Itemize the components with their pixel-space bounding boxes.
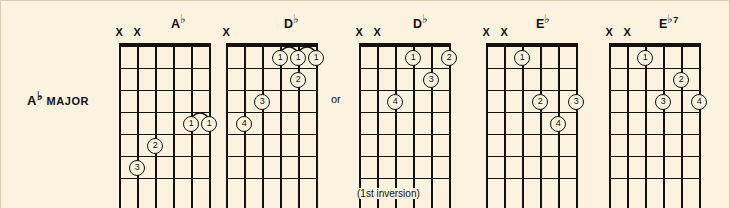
string-line [486, 46, 488, 208]
fretboard: 1234 [609, 46, 699, 178]
muted-string-x-icon: X [501, 27, 508, 38]
finger-dot-2: 2 [532, 94, 548, 110]
finger-dot-2: 2 [673, 72, 689, 88]
finger-dot-1: 1 [514, 50, 530, 66]
flat-accidental-icon: ♭ [544, 12, 550, 26]
fret-line [359, 178, 451, 179]
chord-title-eb7: E♭7 [659, 12, 678, 31]
nut-bar [359, 43, 451, 47]
fret-line [609, 112, 701, 113]
muted-string-x-icon: X [624, 27, 631, 38]
string-line [377, 46, 379, 208]
chord-family-quality: MAJOR [46, 95, 89, 107]
chord-family-accidental-icon: ♭ [37, 89, 44, 103]
string-line [645, 46, 647, 208]
nut-bar [609, 43, 701, 47]
fret-line [359, 68, 451, 69]
fret-line [609, 90, 701, 91]
finger-dot-3: 3 [423, 72, 439, 88]
nut-bar [486, 43, 578, 47]
flat-accidental-icon: ♭ [180, 12, 186, 26]
finger-dot-2: 2 [441, 50, 457, 66]
muted-string-x-icon: X [134, 27, 141, 38]
finger-dot-1: 1 [201, 116, 217, 132]
string-line [413, 46, 415, 208]
fret-line [359, 90, 451, 91]
diagram-caption: (1st inversion) [355, 188, 422, 199]
string-line [699, 46, 701, 208]
string-line [663, 46, 665, 208]
fret-line [486, 134, 578, 135]
finger-dot-2: 2 [290, 72, 306, 88]
string-line [449, 46, 451, 208]
string-line [609, 46, 611, 208]
chord-family-label: A♭MAJOR [27, 89, 89, 108]
chord-title-db-barre: D♭ [284, 12, 299, 31]
fretboard: 111234 [226, 46, 316, 178]
string-line [627, 46, 629, 208]
chord-title-root: D [413, 17, 422, 31]
finger-dot-1: 1 [308, 50, 324, 66]
fret-line [486, 90, 578, 91]
fret-line [359, 112, 451, 113]
fret-line [359, 156, 451, 157]
string-line [431, 46, 433, 208]
finger-dot-4: 4 [550, 116, 566, 132]
finger-dot-1: 1 [290, 50, 306, 66]
finger-dot-1: 1 [183, 116, 199, 132]
finger-dot-1: 1 [405, 50, 421, 66]
chord-title-ab-open: A♭ [171, 12, 186, 31]
chord-title-root: D [284, 17, 293, 31]
chord-title-suffix: 7 [673, 15, 678, 25]
fret-line [609, 156, 701, 157]
chord-title-eb-major: E♭ [536, 12, 550, 31]
string-line [576, 46, 578, 208]
finger-dot-3: 3 [568, 94, 584, 110]
finger-dot-1: 1 [637, 50, 653, 66]
chord-title-root: A [171, 17, 180, 31]
flat-accidental-icon: ♭ [293, 12, 299, 26]
fret-line [609, 134, 701, 135]
flat-accidental-icon: ♭ [422, 12, 428, 26]
muted-string-x-icon: X [223, 27, 230, 38]
finger-dot-4: 4 [691, 94, 707, 110]
fretboard: 1123 [119, 46, 209, 178]
finger-dot-3: 3 [655, 94, 671, 110]
string-line [540, 46, 542, 208]
fretboard: 1234 [359, 46, 449, 178]
fret-line [486, 68, 578, 69]
muted-string-x-icon: X [356, 27, 363, 38]
string-line [504, 46, 506, 208]
fret-line [486, 178, 578, 179]
muted-string-x-icon: X [116, 27, 123, 38]
fret-line [609, 68, 701, 69]
string-line [681, 46, 683, 208]
muted-string-x-icon: X [606, 27, 613, 38]
fretboard: 1234 [486, 46, 576, 178]
finger-dot-4: 4 [236, 116, 252, 132]
fret-line [486, 112, 578, 113]
fret-line [609, 178, 701, 179]
finger-dot-1: 1 [272, 50, 288, 66]
finger-dot-4: 4 [387, 94, 403, 110]
chord-title-db-first-inversion: D♭ [413, 12, 428, 31]
chord-family-root: A [27, 93, 37, 108]
finger-dot-3: 3 [129, 160, 145, 176]
muted-string-x-icon: X [374, 27, 381, 38]
string-line [522, 46, 524, 208]
finger-dot-2: 2 [147, 138, 163, 154]
muted-string-x-icon: X [483, 27, 490, 38]
string-line [359, 46, 361, 208]
chord-chart-page: A♭MAJOR or A♭XX1123D♭X111234D♭XX1234(1st… [0, 0, 730, 208]
fret-line [359, 134, 451, 135]
finger-dot-3: 3 [254, 94, 270, 110]
fret-line [486, 156, 578, 157]
string-line [395, 46, 397, 208]
